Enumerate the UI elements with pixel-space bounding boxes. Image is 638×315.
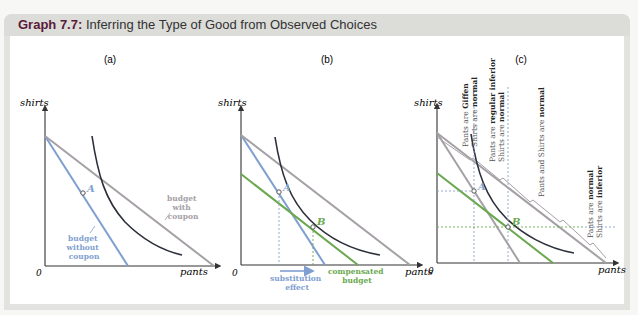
panel-b-point-a-marker — [277, 190, 281, 194]
panel-c-label: (c) — [515, 54, 527, 65]
svg-text:Pants are normal: Pants are normal — [586, 170, 595, 238]
panel-c-budget-with-coupon — [437, 133, 606, 263]
panel-a: (a) shirts 0 pants A budget with coupon … — [20, 54, 218, 278]
panel-c-indifference-curve — [471, 134, 574, 253]
panel-b-budget-with-coupon — [241, 135, 410, 265]
panel-a-budget-without-label: budget without coupon — [66, 234, 102, 261]
panel-a-budget-without-pointer — [90, 226, 95, 233]
panel-a-xlabel: pants — [180, 266, 208, 277]
panel-c-origin: 0 — [428, 266, 434, 276]
panel-c-point-b: B — [511, 216, 520, 227]
panel-a-origin: 0 — [36, 268, 42, 278]
svg-text:Pants are regular inferior: Pants are regular inferior — [488, 57, 497, 162]
panel-b-indifference-curve — [275, 137, 380, 255]
panel-b-ylabel: shirts — [218, 97, 247, 108]
panel-b-point-b-marker — [311, 225, 315, 229]
panel-c-region-regular-inferior: Pants are regular inferior Shirts are no… — [488, 57, 506, 162]
panel-c: (c) shirts 0 pants A B Pants are Giffen … — [414, 54, 626, 276]
svg-text:Pants and Shirts are normal: Pants and Shirts are normal — [537, 87, 546, 197]
panel-a-budget-with-label: budget with coupon — [167, 194, 199, 221]
panel-a-point-a-marker — [81, 191, 85, 195]
panel-a-point-a: A — [86, 183, 95, 194]
panel-b-substitution-label: substitution effect — [270, 274, 324, 292]
panel-b-budget-without-coupon — [241, 135, 325, 265]
panel-b: (b) shirts 0 pants A B substitution effe… — [218, 54, 433, 292]
diagram-canvas: (a) shirts 0 pants A budget with coupon … — [0, 0, 638, 315]
panel-c-ylabel: shirts — [414, 97, 443, 108]
panel-b-point-b: B — [316, 216, 325, 227]
svg-text:Pants are Giffen: Pants are Giffen — [461, 83, 470, 147]
svg-text:Shirts are normal: Shirts are normal — [497, 92, 506, 162]
panel-c-xlabel: pants — [598, 264, 626, 275]
panel-b-compensated-label: compensated budget — [328, 267, 386, 285]
panel-b-label: (b) — [321, 54, 333, 65]
panel-c-region-giffen: Pants are Giffen Shirts are normal — [461, 77, 479, 147]
panel-c-compensated-budget — [437, 173, 553, 263]
panel-c-point-b-marker — [506, 225, 510, 229]
panel-c-point-a: A — [477, 181, 486, 192]
panel-b-point-a: A — [282, 182, 291, 193]
panel-c-point-a-marker — [472, 189, 476, 193]
panel-c-region-shirts-inferior: Pants are normal Shirts are inferior — [586, 165, 604, 238]
panel-a-label: (a) — [104, 54, 116, 65]
panel-c-region-both-normal: Pants and Shirts are normal — [537, 87, 546, 197]
panel-a-ylabel: shirts — [20, 97, 49, 108]
panel-b-compensated-budget — [241, 174, 358, 265]
svg-text:Shirts are normal: Shirts are normal — [470, 77, 479, 147]
svg-text:Shirts are inferior: Shirts are inferior — [595, 165, 604, 238]
panel-b-origin: 0 — [232, 268, 238, 278]
